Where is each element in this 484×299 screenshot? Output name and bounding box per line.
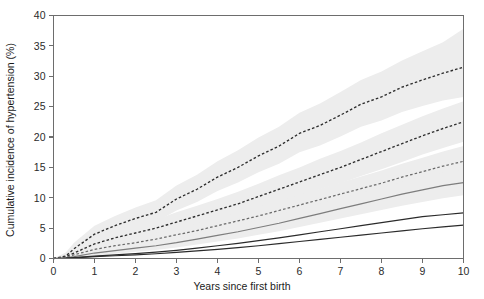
- x-tick-label: 10: [458, 265, 470, 277]
- y-tick-label: 15: [34, 161, 46, 173]
- y-tick-label: 40: [34, 9, 46, 21]
- y-axis-ticks: 0510152025303540: [34, 9, 54, 264]
- y-tick-label: 35: [34, 40, 46, 52]
- x-tick-label: 2: [133, 265, 139, 277]
- x-axis-ticks: 012345678910: [51, 259, 470, 277]
- x-tick-label: 0: [51, 265, 57, 277]
- x-tick-label: 4: [215, 265, 221, 277]
- cumulative-incidence-chart: 0510152025303540 012345678910 Years sinc…: [0, 0, 484, 299]
- x-tick-label: 3: [174, 265, 180, 277]
- y-axis-title: Cumulative incidence of hypertension (%): [4, 43, 16, 237]
- figure-container: 0510152025303540 012345678910 Years sinc…: [0, 0, 484, 299]
- x-tick-label: 7: [338, 265, 344, 277]
- y-tick-label: 30: [34, 70, 46, 82]
- y-tick-label: 20: [34, 131, 46, 143]
- x-tick-label: 5: [256, 265, 262, 277]
- x-tick-label: 9: [420, 265, 426, 277]
- y-tick-label: 5: [40, 222, 46, 234]
- x-tick-label: 6: [297, 265, 303, 277]
- x-axis-title: Years since first birth: [193, 280, 290, 292]
- x-tick-label: 8: [379, 265, 385, 277]
- y-tick-label: 10: [34, 192, 46, 204]
- y-tick-label: 0: [40, 252, 46, 264]
- x-tick-label: 1: [92, 265, 98, 277]
- y-tick-label: 25: [34, 100, 46, 112]
